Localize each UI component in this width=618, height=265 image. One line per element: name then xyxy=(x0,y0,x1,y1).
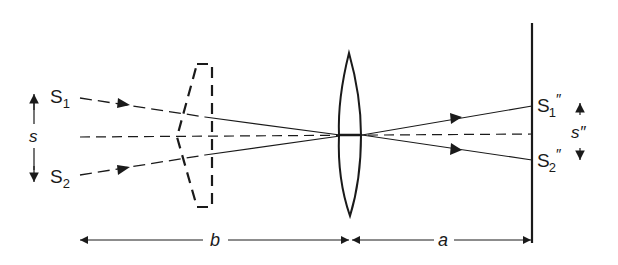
ray-s2-out-arrowhead xyxy=(450,143,462,155)
biprism xyxy=(177,64,212,207)
label-s-separation: s xyxy=(29,127,38,146)
ray-s2-incoming xyxy=(80,155,205,175)
ray-s2-middle xyxy=(205,136,340,155)
ray-s1-middle xyxy=(205,117,340,135)
label-s1-image: S1″ xyxy=(537,90,562,120)
label-distance-a: a xyxy=(438,230,448,250)
ray-s1-outgoing xyxy=(362,106,532,135)
optics-diagram: S1 S2 s S1″ S2″ s″ b a xyxy=(0,0,618,265)
label-distance-b: b xyxy=(210,230,220,250)
label-s1: S1 xyxy=(50,86,70,111)
ray-s2-outgoing xyxy=(362,135,532,160)
label-s2: S2 xyxy=(50,166,70,191)
optical-axis xyxy=(80,134,532,137)
ray-s2-arrowhead xyxy=(117,165,130,175)
ray-s1-arrowhead xyxy=(117,98,130,108)
label-s-double-prime: s″ xyxy=(571,123,587,142)
diagram-svg: S1 S2 s S1″ S2″ s″ b a xyxy=(0,0,618,265)
ray-s1-incoming xyxy=(80,98,205,117)
label-s2-image: S2″ xyxy=(537,145,562,175)
